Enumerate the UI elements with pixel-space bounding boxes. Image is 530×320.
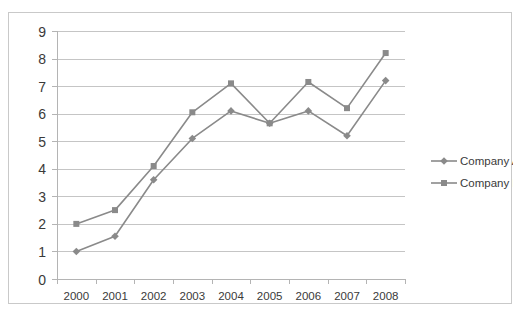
data-point-1-2006 [305, 107, 313, 115]
x-axis-label-2002: 2002 [141, 290, 167, 302]
legend-item-company-a[interactable]: Company A [431, 155, 513, 167]
y-axis-label-4: 4 [38, 161, 46, 177]
series-company-b[interactable] [73, 50, 388, 227]
series-line-1 [76, 81, 385, 252]
x-axis-label-2001: 2001 [102, 290, 128, 302]
data-point-2-2001 [112, 207, 118, 213]
legend-label-1: Company A [460, 155, 513, 167]
y-axis-label-8: 8 [38, 51, 46, 67]
x-axis-label-2003: 2003 [180, 290, 206, 302]
x-axis-label-2006: 2006 [296, 290, 322, 302]
x-axis-label-2005: 2005 [257, 290, 283, 302]
data-point-2-2008 [383, 50, 389, 56]
series-line-2 [76, 53, 385, 224]
data-point-2-2006 [305, 79, 311, 85]
data-point-2-2003 [189, 109, 195, 115]
y-axis-label-1: 1 [38, 244, 46, 260]
x-axis-label-2004: 2004 [218, 290, 244, 302]
y-axis-label-2: 2 [38, 216, 46, 232]
legend-label-2: Company B [460, 177, 513, 189]
y-axis-label-6: 6 [38, 106, 46, 122]
y-axis-label-5: 5 [38, 134, 46, 150]
data-point-2-2007 [344, 105, 350, 111]
data-point-2-2004 [228, 80, 234, 86]
y-axis-label-7: 7 [38, 79, 46, 95]
x-axis-group: 200020012002200320042005200620072008 [58, 279, 406, 302]
legend-marker-1 [440, 157, 448, 165]
legend-item-company-b[interactable]: Company B [431, 177, 513, 189]
y-gridlines-group: 0123456789 [38, 24, 405, 288]
legend: Company ACompany B [431, 155, 513, 189]
x-axis-label-2007: 2007 [334, 290, 360, 302]
data-point-2-2000 [73, 221, 79, 227]
legend-marker-2 [441, 180, 447, 186]
y-axis-label-9: 9 [38, 24, 46, 40]
series-company-a[interactable] [73, 77, 390, 255]
x-axis-label-2000: 2000 [64, 290, 90, 302]
y-axis-label-3: 3 [38, 189, 46, 205]
x-axis-label-2008: 2008 [373, 290, 399, 302]
chart-frame: 0123456789200020012002200320042005200620… [8, 12, 512, 304]
data-point-1-2000 [73, 248, 81, 256]
data-point-2-2005 [267, 120, 273, 126]
data-point-2-2002 [151, 163, 157, 169]
line-chart[interactable]: 0123456789200020012002200320042005200620… [9, 13, 513, 305]
y-axis-label-0: 0 [38, 272, 46, 288]
